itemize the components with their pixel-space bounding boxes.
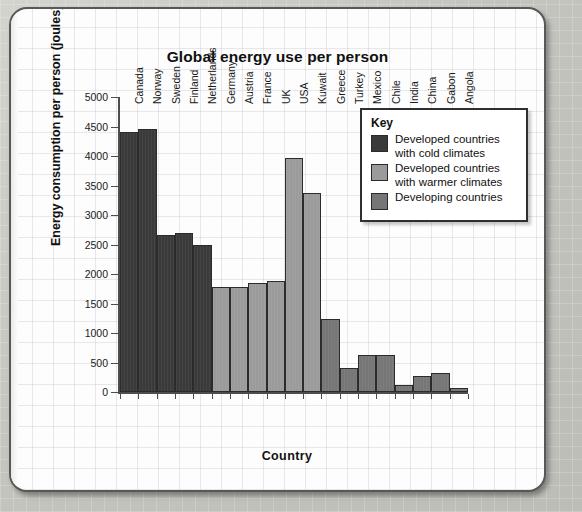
x-tick-label-india: India	[408, 81, 420, 104]
x-tick-mark	[267, 394, 268, 399]
legend-entries: Developed countries with cold climatesDe…	[371, 133, 518, 210]
x-tick-label-germany: Germany	[225, 61, 237, 104]
bar-canada	[120, 132, 138, 392]
y-tick-mark	[111, 156, 118, 157]
x-tick-label-uk: UK	[280, 89, 292, 104]
bar-greece	[321, 319, 339, 392]
x-tick-mark	[376, 394, 377, 399]
y-tick-label: 4000	[85, 150, 108, 162]
legend-entry-warm: Developed countries with warmer climates	[371, 162, 518, 189]
x-tick-label-sweden: Sweden	[170, 66, 182, 104]
x-tick-mark	[230, 394, 231, 399]
x-tick-mark	[340, 394, 341, 399]
y-tick-label: 3500	[85, 180, 108, 192]
y-tick-label: 4500	[85, 121, 108, 133]
legend-label-develop: Developing countries	[395, 191, 502, 205]
x-tick-mark	[157, 394, 158, 399]
legend-swatch-cold	[371, 135, 388, 152]
legend-swatch-warm	[371, 164, 388, 181]
bar-netherlands	[193, 245, 211, 392]
y-tick-mark	[111, 304, 118, 305]
x-tick-mark	[431, 394, 432, 399]
bar-germany	[212, 287, 230, 392]
legend-title: Key	[371, 116, 518, 130]
legend-entry-cold: Developed countries with cold climates	[371, 133, 518, 160]
legend-label-cold: Developed countries with cold climates	[395, 133, 518, 160]
bar-angola	[450, 388, 468, 392]
x-tick-mark	[413, 394, 414, 399]
x-tick-label-norway: Norway	[151, 68, 163, 104]
bar-gabon	[431, 373, 449, 392]
bar-uk	[267, 281, 285, 393]
x-tick-mark	[212, 394, 213, 399]
x-tick-label-kuwait: Kuwait	[316, 72, 328, 104]
bar-finland	[175, 233, 193, 392]
x-tick-label-greece: Greece	[335, 70, 347, 104]
x-tick-label-angola: Angola	[463, 71, 475, 104]
y-tick-mark	[111, 392, 118, 393]
x-tick-label-france: France	[261, 71, 273, 104]
bar-sweden	[157, 235, 175, 392]
x-tick-label-usa: USA	[298, 82, 310, 104]
x-tick-label-gabon: Gabon	[445, 72, 457, 104]
bar-mexico	[358, 355, 376, 392]
y-tick-mark	[111, 363, 118, 364]
x-tick-label-netherlands: Netherlands	[206, 47, 218, 104]
x-tick-mark	[321, 394, 322, 399]
bar-chile	[376, 355, 394, 392]
x-tick-mark	[285, 394, 286, 399]
legend-swatch-develop	[371, 193, 388, 210]
y-tick-label: 2500	[85, 239, 108, 251]
legend-label-warm: Developed countries with warmer climates	[395, 162, 518, 189]
x-tick-mark	[248, 394, 249, 399]
x-tick-mark	[468, 394, 469, 399]
y-tick-label: 2000	[85, 268, 108, 280]
x-tick-label-china: China	[426, 77, 438, 104]
bar-austria	[230, 287, 248, 392]
y-tick-mark	[111, 97, 118, 98]
y-tick-mark	[111, 186, 118, 187]
bar-france	[248, 283, 266, 392]
x-tick-label-turkey: Turkey	[353, 72, 365, 104]
y-tick-mark	[111, 245, 118, 246]
x-tick-mark	[450, 394, 451, 399]
x-tick-mark	[138, 394, 139, 399]
x-tick-mark	[120, 394, 121, 399]
y-tick-label: 5000	[85, 91, 108, 103]
y-tick-label: 0	[102, 386, 108, 398]
bar-china	[413, 376, 431, 392]
chart-legend: Key Developed countries with cold climat…	[360, 108, 528, 222]
bar-norway	[138, 129, 156, 392]
bar-turkey	[340, 368, 358, 392]
legend-entry-develop: Developing countries	[371, 191, 518, 210]
y-tick-mark	[111, 127, 118, 128]
y-tick-mark	[111, 333, 118, 334]
y-tick-label: 1500	[85, 298, 108, 310]
x-tick-label-austria: Austria	[243, 71, 255, 104]
x-tick-label-mexico: Mexico	[371, 71, 383, 104]
x-axis-label: Country	[111, 449, 463, 463]
worksheet-page: Global energy use per person Energy cons…	[9, 7, 546, 492]
x-tick-label-chile: Chile	[390, 80, 402, 104]
x-tick-mark	[303, 394, 304, 399]
x-tick-label-finland: Finland	[188, 70, 200, 104]
x-axis-line	[118, 392, 468, 394]
x-tick-label-canada: Canada	[133, 67, 145, 104]
x-tick-mark	[193, 394, 194, 399]
y-tick-label: 3000	[85, 209, 108, 221]
bar-chart-figure: Global energy use per person Energy cons…	[11, 9, 544, 490]
bar-india	[395, 385, 413, 392]
y-tick-label: 500	[90, 357, 108, 369]
bar-usa	[285, 158, 303, 392]
y-tick-mark	[111, 215, 118, 216]
y-tick-label: 1000	[85, 327, 108, 339]
chart-title: Global energy use per person	[11, 48, 544, 66]
bar-kuwait	[303, 193, 321, 392]
x-tick-mark	[175, 394, 176, 399]
y-axis-label: Energy consumption per person (joules)	[49, 46, 63, 246]
y-tick-mark	[111, 274, 118, 275]
x-tick-mark	[358, 394, 359, 399]
x-tick-mark	[395, 394, 396, 399]
